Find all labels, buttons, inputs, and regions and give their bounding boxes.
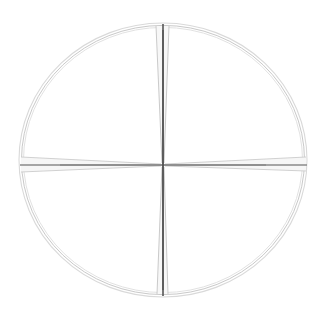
reticle-canvas bbox=[0, 0, 325, 316]
crosshair-center-point bbox=[162, 164, 163, 165]
reticle-diagram bbox=[0, 0, 325, 316]
